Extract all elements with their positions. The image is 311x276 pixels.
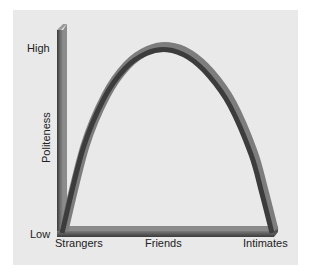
series-line-politeness: [62, 50, 272, 233]
x-axis-top-face: [63, 226, 278, 231]
chart: High Low Politeness Strangers Friends In…: [0, 0, 311, 276]
y-tick-label-high: High: [27, 42, 50, 54]
x-tick-label-intimates: Intimates: [243, 237, 288, 249]
x-tick-label-strangers: Strangers: [55, 237, 103, 249]
y-tick-label-low: Low: [30, 228, 50, 240]
y-axis: [57, 30, 63, 237]
x-tick-label-friends: Friends: [145, 237, 182, 249]
y-axis-label: Politeness: [40, 112, 52, 163]
